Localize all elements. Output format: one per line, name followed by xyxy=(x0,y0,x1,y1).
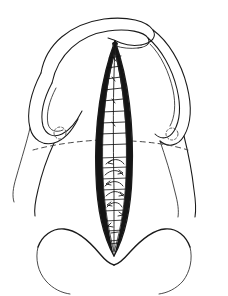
lens-wound-group xyxy=(96,41,133,256)
labium-right-inner-contour xyxy=(148,38,179,138)
lower-lobe-right-outer xyxy=(114,229,190,265)
labium-right-group xyxy=(148,30,196,217)
lower-lobe-right-inner xyxy=(159,247,191,294)
figure-root xyxy=(0,0,228,296)
anatomical-line-drawing xyxy=(0,0,228,296)
lower-lobe-left-outer xyxy=(38,229,114,265)
lower-lobe-left-inner xyxy=(37,247,70,294)
reference-line-left-segment xyxy=(33,140,101,150)
labium-right-inner-contour-2 xyxy=(150,44,175,126)
upper-hood-return-stroke-2 xyxy=(116,46,138,48)
labium-left-lower-sweep xyxy=(13,128,30,202)
upper-hood-group xyxy=(41,18,154,83)
labium-left-inner-contour-2 xyxy=(47,88,63,131)
labium-left-group xyxy=(13,73,82,216)
labium-left-outer-contour xyxy=(29,73,78,144)
labium-left-body-sweep xyxy=(35,143,54,216)
labium-right-lower-sweep xyxy=(160,141,178,217)
labium-right-body-sweep xyxy=(184,136,196,217)
reference-line-right-segment xyxy=(131,141,188,150)
upper-hood-inner-arc xyxy=(52,30,149,83)
